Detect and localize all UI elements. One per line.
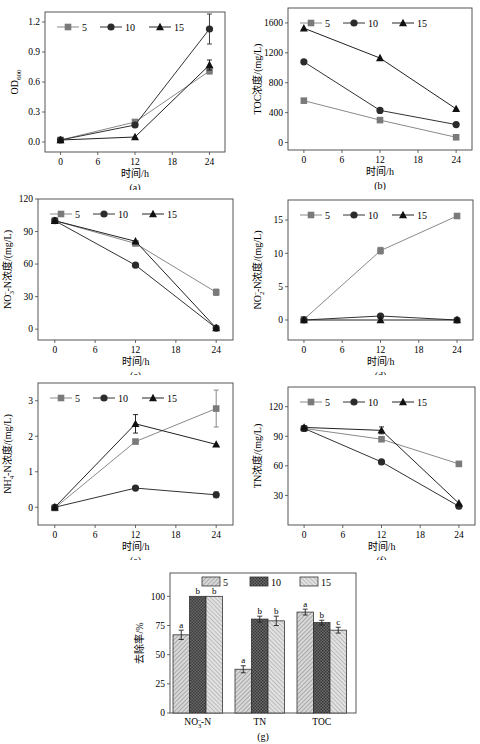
data-point-marker: [131, 121, 138, 128]
legend-item-5: 5: [57, 22, 87, 33]
legend-marker-icon: [65, 24, 72, 31]
x-tick-label: 6: [340, 155, 345, 165]
x-tick-label: 12: [131, 345, 141, 355]
data-point-marker: [300, 24, 308, 31]
legend: 51015: [300, 397, 427, 408]
y-axis-label: TOC浓度/(mg/L): [251, 44, 264, 115]
legend-item-15: 15: [392, 18, 427, 29]
data-point-marker: [378, 436, 385, 443]
y-tick-label: 60: [274, 461, 284, 471]
y-tick-label: 1200: [264, 48, 283, 58]
series-15: [57, 60, 214, 143]
data-point-marker: [213, 289, 220, 296]
x-tick-label: 24: [454, 530, 464, 540]
significance-letter: c: [336, 617, 340, 627]
chart-panel-a: 061218240.00.30.60.91.2时间/hOD600(a)51015: [0, 0, 240, 190]
data-point-marker: [132, 262, 139, 269]
svg-text:10: 10: [368, 397, 378, 408]
panel-label: (g): [257, 731, 269, 743]
bar-chart-g: 0255075100去除率/%abbNO3–-NabbTNabcTOC(g)51…: [130, 560, 360, 744]
data-point-marker: [377, 117, 384, 124]
line-chart-c: 061218240306090120时间/hNO3–-N浓度/(mg/L)(c)…: [0, 190, 240, 375]
svg-text:15: 15: [417, 18, 427, 29]
x-tick-label: 12: [376, 345, 386, 355]
bar-group: abb: [173, 586, 223, 713]
plot-area: 06121824306090120时间/hTN浓度/(mg/L)(f)51015: [251, 387, 475, 560]
x-tick-label: 0: [301, 155, 306, 165]
x-tick-label: 6: [93, 345, 98, 355]
svg-text:10: 10: [125, 22, 135, 33]
legend-item-15: 15: [142, 209, 177, 220]
bar: [297, 612, 314, 713]
x-tick-label: 12: [377, 530, 387, 540]
legend-marker-icon: [308, 399, 315, 406]
legend: 51015: [300, 210, 427, 221]
svg-text:5: 5: [82, 22, 87, 33]
legend-marker-icon: [350, 398, 357, 405]
y-axis-label: NH4+-N浓度/(mg/L): [1, 414, 16, 494]
panel-label: (f): [377, 555, 387, 560]
plot-area: 0255075100去除率/%abbNO3–-NabbTNabcTOC(g)51…: [133, 573, 356, 743]
bar-group: abc: [297, 599, 347, 713]
legend-marker-icon: [308, 212, 315, 219]
chart-panel-f: 06121824306090120时间/hTN浓度/(mg/L)(f)51015: [240, 375, 480, 560]
series-5: [301, 213, 461, 323]
svg-text:10: 10: [368, 18, 378, 29]
y-tick-label: 1600: [264, 18, 283, 28]
y-tick-label: 60: [24, 259, 34, 269]
legend: 51015: [57, 22, 184, 33]
x-axis-label: 时间/h: [368, 540, 396, 552]
series-10: [57, 14, 213, 144]
significance-letter: b: [320, 610, 325, 620]
y-tick-label: 90: [24, 227, 34, 237]
svg-text:10: 10: [118, 393, 128, 404]
y-tick-label: 0: [160, 708, 165, 718]
svg-text:5: 5: [75, 393, 80, 404]
axes-frame: [45, 12, 225, 152]
svg-text:15: 15: [167, 209, 177, 220]
legend-marker-icon: [58, 211, 65, 218]
y-axis-label: TN浓度/(mg/L): [251, 424, 264, 488]
data-point-marker: [454, 213, 461, 220]
legend-marker-icon: [308, 20, 315, 27]
x-tick-label: 24: [211, 345, 221, 355]
x-tick-label: 0: [52, 530, 57, 540]
bar: [268, 621, 285, 713]
svg-text:10: 10: [271, 577, 281, 588]
x-tick-label: 18: [415, 530, 425, 540]
svg-text:15: 15: [417, 210, 427, 221]
x-tick-label: 12: [130, 157, 140, 167]
plot-area: 06121824040080012001600时间/hTOC浓度/(mg/L)(…: [251, 8, 472, 190]
line-chart-f: 06121824306090120时间/hTN浓度/(mg/L)(f)51015: [240, 375, 480, 560]
series-5: [57, 68, 213, 144]
svg-text:5: 5: [223, 577, 228, 588]
y-tick-label: 30: [24, 292, 34, 302]
data-point-marker: [452, 105, 460, 112]
y-tick-label: 25: [156, 679, 166, 689]
y-tick-label: 15: [274, 215, 284, 225]
x-tick-label: 12: [131, 530, 141, 540]
data-point-marker: [213, 405, 220, 412]
y-tick-label: 1: [28, 467, 33, 477]
legend-item-10: 10: [93, 393, 128, 404]
bar: [235, 669, 252, 713]
svg-text:15: 15: [321, 577, 331, 588]
legend-item-10: 10: [93, 209, 128, 220]
significance-letter: b: [212, 586, 217, 596]
legend-item-10: 10: [343, 397, 378, 408]
x-tick-label: TN: [253, 717, 266, 727]
legend-item-15: 15: [149, 22, 184, 33]
data-point-marker: [376, 54, 384, 61]
bar-group: abb: [235, 606, 285, 713]
x-axis-label: 时间/h: [122, 540, 150, 552]
svg-text:15: 15: [417, 397, 427, 408]
legend-item-15: 15: [300, 577, 331, 588]
legend-item-5: 5: [50, 393, 80, 404]
data-point-marker: [453, 121, 460, 128]
y-tick-label: 90: [274, 432, 284, 442]
axes-frame: [288, 387, 475, 525]
legend-swatch-icon: [300, 577, 318, 586]
x-tick-label: 0: [302, 345, 307, 355]
x-axis-label: 时间/h: [122, 355, 150, 367]
svg-text:15: 15: [167, 393, 177, 404]
